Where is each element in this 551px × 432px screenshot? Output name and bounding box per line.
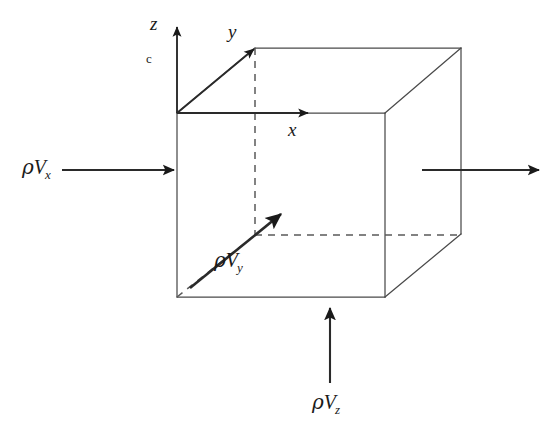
- cube-edge-bottom-right-diag: [385, 234, 461, 297]
- rho-symbol-y: ρ: [214, 248, 226, 272]
- axis-label-x: x: [288, 120, 296, 139]
- cube-edge-top-right-diag: [385, 48, 461, 113]
- flux-label-rho-vy: ρVy: [214, 250, 243, 274]
- figure-canvas: [0, 0, 551, 432]
- rho-symbol-z: ρ: [312, 390, 324, 414]
- axis-label-z: z: [150, 14, 157, 33]
- flux-subscript-x: x: [45, 167, 51, 182]
- rho-symbol-x: ρ: [22, 155, 34, 179]
- axis-label-y: y: [228, 22, 236, 41]
- flux-arrows: [62, 170, 539, 383]
- flux-label-rho-vz: ρVz: [312, 392, 340, 416]
- flux-control-volume-figure: z y x c ρVx ρVy ρVz: [0, 0, 551, 432]
- axis-y-arrow: [177, 49, 254, 113]
- coordinate-axes: [177, 27, 308, 113]
- flux-subscript-y: y: [237, 260, 243, 275]
- flux-label-rho-vx: ρVx: [22, 157, 51, 181]
- flux-subscript-z: z: [335, 402, 340, 417]
- origin-mark-c: c: [146, 52, 152, 65]
